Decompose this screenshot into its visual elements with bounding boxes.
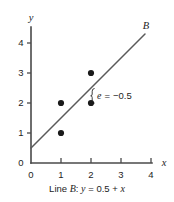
residual-value: −0.5 <box>113 90 132 101</box>
plot-canvas: 0 1 2 3 4 0 1 2 3 4 y x B e=−0.5 <box>0 0 174 202</box>
caption-equals: = <box>88 183 94 194</box>
caption-colon: : <box>76 183 79 194</box>
y-tick-label-3: 3 <box>18 67 23 78</box>
caption-intercept: 0.5 <box>96 183 109 194</box>
residual-annotation-label: e=−0.5 <box>97 90 132 101</box>
data-point <box>88 70 94 76</box>
x-tick-label-4: 4 <box>148 169 153 180</box>
x-tick-label-2: 2 <box>88 169 93 180</box>
y-tick-label-2: 2 <box>18 97 23 108</box>
line-b-label: B <box>143 20 150 31</box>
y-tick-label-0: 0 <box>18 157 23 168</box>
x-tick-label-3: 3 <box>118 169 123 180</box>
y-tick-label-1: 1 <box>18 127 23 138</box>
data-point <box>58 100 64 106</box>
x-axis-label: x <box>161 157 167 168</box>
caption-plus: + <box>112 183 118 194</box>
residual-symbol: e <box>97 90 102 101</box>
figure-caption: Line B: y = 0.5 + x <box>0 183 174 194</box>
caption-var-x: x <box>120 183 124 194</box>
data-point <box>88 100 94 106</box>
residual-equals: = <box>104 90 110 101</box>
caption-prefix: Line <box>49 183 67 194</box>
data-point <box>58 130 64 136</box>
y-tick-label-4: 4 <box>18 37 23 48</box>
y-axis-label: y <box>28 12 34 23</box>
caption-var-y: y <box>81 183 85 194</box>
x-tick-label-1: 1 <box>58 169 63 180</box>
scatter-plot-figure: 0 1 2 3 4 0 1 2 3 4 y x B e=−0.5 <box>0 0 174 202</box>
x-tick-label-0: 0 <box>28 169 33 180</box>
